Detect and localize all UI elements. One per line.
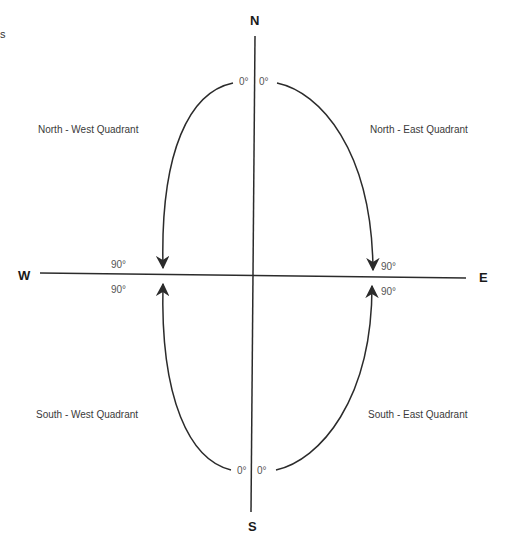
south-label: S <box>248 520 257 534</box>
se-start-angle: 0° <box>257 465 267 476</box>
north-west-quadrant-label: North - West Quadrant <box>38 124 138 136</box>
west-label: W <box>18 269 30 283</box>
south-west-quadrant-label: South - West Quadrant <box>36 409 138 421</box>
ne-end-angle: 90° <box>381 261 396 272</box>
north-west-arc-arrow <box>163 83 233 268</box>
cropped-text-fragment: s <box>0 28 6 40</box>
se-end-angle: 90° <box>381 286 396 297</box>
north-east-arc-arrow <box>277 83 373 270</box>
sw-end-angle: 90° <box>111 284 126 295</box>
ne-start-angle: 0° <box>259 76 269 87</box>
sw-start-angle: 0° <box>237 465 247 476</box>
north-south-axis <box>251 36 255 512</box>
compass-diagram <box>0 0 505 551</box>
south-east-arc-arrow <box>276 286 372 470</box>
north-label: N <box>250 14 259 28</box>
nw-start-angle: 0° <box>239 76 249 87</box>
south-west-arc-arrow <box>163 284 231 470</box>
east-label: E <box>479 271 488 285</box>
north-east-quadrant-label: North - East Quadrant <box>370 124 468 136</box>
nw-end-angle: 90° <box>111 259 126 270</box>
south-east-quadrant-label: South - East Quadrant <box>368 409 468 421</box>
